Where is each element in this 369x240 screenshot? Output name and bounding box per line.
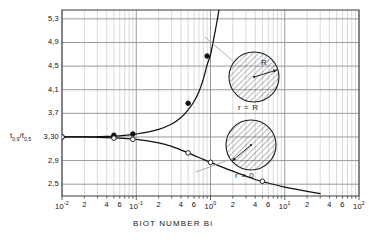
- grid-minor-vertical: [84, 10, 355, 196]
- y-tick-label-1: 4,9: [48, 37, 59, 46]
- y-tick-label-3: 4,1: [48, 85, 59, 94]
- y-tick-label-7: 2,5: [48, 179, 59, 188]
- x-axis-title: BIOT NUMBER Bi: [133, 219, 213, 228]
- y-tick-label-6: 2,9: [48, 156, 59, 165]
- y-axis-title: t0,9/t0,5: [10, 131, 31, 142]
- figure-root: t0,9/t0,5 BIOT NUMBER Bi 5,34,94,54,13,7…: [0, 0, 369, 240]
- y-tick-label-5: 3,30: [44, 132, 59, 141]
- y-tick-label-2: 4,5: [48, 61, 59, 70]
- x-tick-label-16: 102: [345, 200, 369, 211]
- y-tick-label-0: 5,3: [48, 14, 59, 23]
- y-tick-label-4: 3,7: [48, 108, 59, 117]
- inset-radius-label: R: [261, 58, 267, 67]
- y-axis-title-denominator-sub: 0,5: [24, 136, 31, 142]
- inset-caption-inset-r-equals-R: r = R: [238, 103, 259, 112]
- inset-caption-inset-r-equals-0: r = 0: [235, 171, 254, 180]
